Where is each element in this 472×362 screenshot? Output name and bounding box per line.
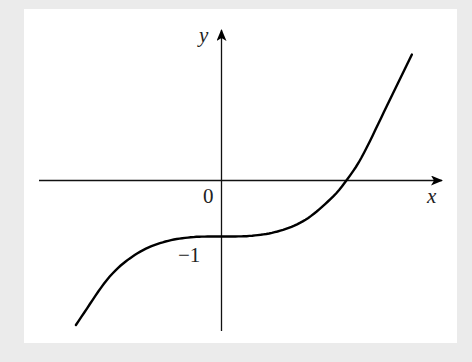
origin-label: 0 (203, 186, 214, 207)
x-axis-label: x (427, 186, 436, 207)
graph-canvas (0, 0, 472, 362)
y-axis-label: y (199, 25, 208, 46)
y-intercept-label: −1 (178, 245, 200, 266)
cubic-curve (76, 55, 412, 326)
